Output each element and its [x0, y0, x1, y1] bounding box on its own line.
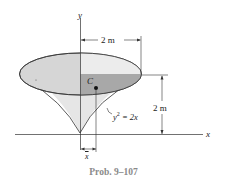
x-axis-label: x: [206, 130, 210, 139]
height-label: 2 m: [153, 104, 167, 113]
diagram-canvas: [0, 0, 227, 190]
figure-caption: Prob. 9–107: [0, 167, 227, 177]
curve-leader: [107, 108, 112, 114]
xbar-label: x: [85, 153, 89, 161]
curve-equation: y2 = 2x: [113, 111, 138, 121]
radius-label: 2 m: [101, 36, 115, 45]
centroid-label: C: [87, 77, 93, 86]
centroid-point: [94, 86, 98, 90]
y-axis-label: y: [78, 11, 82, 20]
